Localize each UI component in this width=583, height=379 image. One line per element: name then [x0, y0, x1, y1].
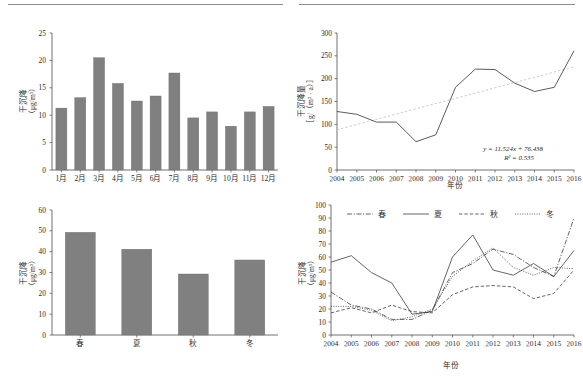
bar — [188, 118, 199, 170]
annual-y-tick-labels: 050100150200250300 — [321, 29, 332, 175]
monthly-bar-svg: 0510152025 1月2月3月4月5月6月7月8月9月10月11月12月 干… — [0, 0, 291, 190]
y-tick-label: 20 — [39, 56, 47, 65]
bar — [150, 96, 161, 170]
seasonal-trend-x-tick-labels: 2004200520062007200820092010201120122013… — [323, 339, 581, 348]
x-tick-label: 12月 — [261, 174, 277, 183]
x-tick-label: 2013 — [506, 339, 521, 348]
annual-y-axis-unit: ［g/（m² · a）］ — [306, 75, 315, 127]
y-tick-label: 10 — [39, 111, 47, 120]
annual-series-line — [337, 51, 574, 142]
y-tick-label: 30 — [319, 292, 327, 301]
bar — [207, 112, 218, 170]
bar — [112, 83, 123, 170]
y-tick-label: 0 — [42, 331, 46, 340]
x-tick-label: 2007 — [389, 174, 404, 183]
x-tick-label: 2015 — [546, 339, 561, 348]
annual-trend-equation: y = 11.524x + 76.438 — [482, 145, 543, 152]
x-tick-label: 2006 — [364, 339, 379, 348]
bar — [263, 106, 274, 170]
monthly-y-axis-unit: （μg/m³） — [28, 84, 37, 118]
seasonal-trend-y-tick-labels: 0102030405060708090100 — [315, 201, 326, 340]
chart-annual-dry-deposition-flux: 050100150200250300 200420052006200720082… — [291, 0, 583, 190]
bar — [94, 58, 105, 170]
bar — [244, 112, 255, 170]
bar — [225, 126, 236, 170]
seasonal-x-tick-labels: 春夏秋冬 — [76, 338, 254, 348]
x-tick-label: 3月 — [93, 174, 105, 183]
seasonal-trend-legend: 春夏秋冬 — [347, 209, 554, 219]
bar — [169, 73, 180, 170]
seasonal-trend-y-axis-title: 干沉降 — [297, 261, 307, 285]
x-tick-label: 2004 — [323, 339, 338, 348]
x-tick-label: 9月 — [206, 174, 218, 183]
y-tick-label: 70 — [319, 240, 327, 249]
y-tick-label: 5 — [42, 138, 46, 147]
annual-line-svg: 050100150200250300 200420052006200720082… — [291, 0, 583, 190]
x-tick-label: 2013 — [507, 174, 522, 183]
x-tick-label: 6月 — [150, 174, 162, 183]
y-tick-label: 20 — [39, 289, 47, 298]
x-tick-label: 2009 — [428, 174, 443, 183]
x-tick-label: 2月 — [74, 174, 86, 183]
figure-top-rule-right — [299, 4, 575, 5]
x-tick-label: 5月 — [131, 174, 143, 183]
y-tick-label: 300 — [321, 29, 332, 38]
seasonal-trend-y-axis-unit: （μg/m³） — [307, 256, 316, 290]
x-tick-label: 2012 — [487, 174, 502, 183]
seasonal-y-axis-unit: （μg/m³） — [28, 256, 37, 290]
y-tick-label: 40 — [319, 279, 327, 288]
y-tick-label: 10 — [319, 318, 327, 327]
y-tick-label: 250 — [321, 51, 332, 60]
x-tick-label: 2008 — [408, 174, 423, 183]
seasonal-y-axis-title: 干沉降 — [18, 261, 28, 285]
annual-r-squared: R² = 0.535 — [503, 154, 534, 161]
seasonal-trend-tickmarks — [329, 205, 575, 338]
x-tick-label: 春 — [76, 338, 84, 348]
seasonal-trend-svg: 0102030405060708090100 春夏秋冬 200420052006… — [291, 190, 583, 379]
y-tick-label: 100 — [321, 120, 332, 129]
x-tick-label: 2005 — [349, 174, 364, 183]
figure-top-rule-left — [8, 4, 283, 5]
x-tick-label: 2005 — [344, 339, 359, 348]
bar — [131, 101, 142, 170]
series-line-dotted — [331, 248, 574, 321]
monthly-y-axis-title: 干沉降 — [18, 89, 28, 113]
legend-label: 夏 — [434, 210, 442, 219]
x-tick-label: 7月 — [169, 174, 181, 183]
monthly-x-tick-labels: 1月2月3月4月5月6月7月8月9月10月11月12月 — [56, 174, 277, 183]
y-tick-label: 150 — [321, 97, 332, 106]
x-tick-label: 2015 — [547, 174, 562, 183]
y-tick-label: 10 — [39, 310, 47, 319]
legend-label: 冬 — [546, 209, 554, 219]
bar — [178, 274, 208, 335]
x-tick-label: 2004 — [329, 174, 344, 183]
legend-label: 秋 — [490, 209, 498, 219]
y-tick-label: 50 — [39, 226, 47, 235]
y-tick-label: 20 — [319, 305, 327, 314]
y-tick-label: 25 — [39, 29, 47, 38]
x-tick-label: 10月 — [223, 174, 239, 183]
x-tick-label: 2008 — [404, 339, 419, 348]
legend-label: 春 — [378, 209, 386, 219]
series-line-solid — [331, 235, 574, 314]
chart-monthly-dry-deposition: 0510152025 1月2月3月4月5月6月7月8月9月10月11月12月 干… — [0, 0, 291, 190]
y-tick-label: 80 — [319, 227, 327, 236]
annual-y-axis-title: 干沉降量 — [296, 85, 306, 117]
bar — [122, 249, 152, 335]
x-tick-label: 2011 — [465, 339, 480, 348]
x-tick-label: 2014 — [526, 339, 541, 348]
y-tick-label: 50 — [325, 143, 333, 152]
y-tick-label: 30 — [39, 268, 47, 277]
chart-seasonal-dry-deposition: 0102030405060 春夏秋冬 干沉降 （μg/m³） — [0, 190, 291, 379]
chart-seasonal-trend-by-year: 0102030405060708090100 春夏秋冬 200420052006… — [291, 190, 583, 379]
x-tick-label: 2016 — [566, 174, 581, 183]
y-tick-label: 40 — [39, 247, 47, 256]
monthly-y-tick-labels: 0510152025 — [39, 29, 47, 175]
x-tick-label: 2012 — [485, 339, 500, 348]
y-tick-label: 50 — [319, 266, 327, 275]
y-tick-label: 60 — [39, 206, 47, 215]
x-tick-label: 2006 — [369, 174, 384, 183]
bar — [75, 98, 86, 170]
seasonal-trend-series-group — [331, 218, 574, 321]
x-tick-label: 8月 — [187, 174, 199, 183]
